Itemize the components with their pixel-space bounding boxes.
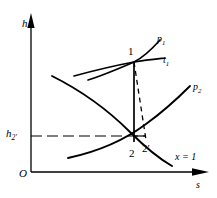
- state-point-2prime-label: 2′: [142, 143, 150, 154]
- h2prime-axis-tick-label: h2′: [6, 128, 17, 142]
- t1-subscript: 1: [166, 60, 169, 67]
- h-axis-label: h: [22, 18, 28, 29]
- state-point-2-label: 2: [129, 148, 135, 159]
- s-axis-label: s: [196, 180, 200, 190]
- quality-line-label: x = 1: [175, 152, 196, 162]
- h-axis: [27, 13, 34, 172]
- s-axis: [31, 168, 209, 176]
- p2-curve-label: p2: [193, 82, 201, 95]
- t1-curve-label: t1: [163, 55, 169, 68]
- t1-isotherm-curve: [74, 58, 165, 76]
- state-point-1-label: 1: [128, 46, 134, 57]
- saturation-curve-x1: [52, 76, 172, 166]
- origin-label: O: [19, 168, 27, 179]
- diagram-canvas: [0, 0, 217, 198]
- mollier-diagram-figure: h s O h2′ p1 t1 p2 1 2 2′ x = 1: [0, 0, 217, 198]
- p1-subscript: 1: [162, 39, 165, 46]
- h2prime-subscript: 2′: [12, 133, 17, 142]
- p1-curve-label: p1: [157, 34, 165, 47]
- p2-subscript: 2: [198, 87, 201, 94]
